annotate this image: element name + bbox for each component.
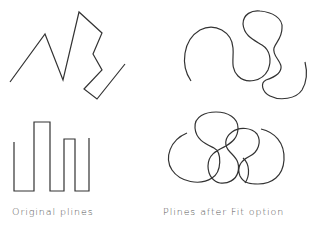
zigzag-fitted-curve bbox=[185, 11, 307, 99]
zigzag-original-pline bbox=[10, 12, 125, 99]
square-wave-original-pline bbox=[14, 122, 89, 191]
diagram-canvas bbox=[0, 0, 316, 230]
square-wave-fitted-curve bbox=[168, 112, 284, 184]
square-wave-fitted-lens bbox=[243, 158, 249, 183]
caption-plines-after-fit: Plines after Fit option bbox=[163, 207, 284, 217]
caption-original-plines: Original plines bbox=[12, 207, 94, 217]
